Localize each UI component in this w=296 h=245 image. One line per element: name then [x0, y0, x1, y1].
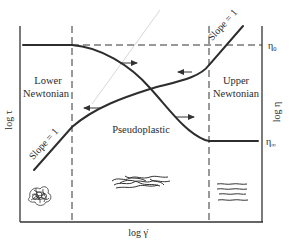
y-right-axis-label: log η: [271, 102, 282, 123]
pseudoplastic-flow-diagram: Lower Newtonian Pseudoplastic Upper Newt…: [0, 0, 296, 245]
slope-lower-label: Slope = 1: [26, 126, 60, 162]
coiled-polymer-icon: [29, 187, 51, 206]
pseudoplastic-label: Pseudoplastic: [112, 124, 170, 135]
upper-newtonian-label-line1: Upper: [223, 75, 250, 86]
aligned-chains-icon: [217, 184, 248, 201]
stretched-polymer-chains-icon: [112, 176, 170, 188]
lower-newtonian-label-line2: Newtonian: [23, 88, 70, 99]
y-left-axis-label: log τ: [3, 110, 14, 129]
x-axis-label: log γ̇: [128, 227, 149, 238]
upper-newtonian-label-line2: Newtonian: [213, 88, 260, 99]
lower-newtonian-label-line1: Lower: [34, 75, 62, 86]
eta-inf-label: η∞: [266, 136, 276, 148]
eta-zero-label: η0: [268, 40, 276, 52]
